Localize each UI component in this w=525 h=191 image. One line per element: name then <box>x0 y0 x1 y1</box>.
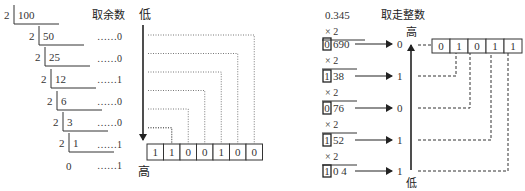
fraction-part: 52 <box>333 134 344 146</box>
fraction-part: 76 <box>333 102 345 114</box>
bit-value: 0 <box>438 40 444 52</box>
extracted-bit: 1 <box>397 134 403 146</box>
fraction-part: 0 4 <box>333 165 347 177</box>
integer-part: 1 <box>324 165 330 177</box>
bit-value: 0 <box>474 40 480 52</box>
extracted-bit: 1 <box>397 165 403 177</box>
integer-part: 1 <box>324 70 330 82</box>
fraction-binary-result: 01011 <box>432 39 522 53</box>
low-label: 低 <box>139 8 151 22</box>
bit-value: 0 <box>202 146 208 158</box>
high-label-right: 高 <box>406 25 417 39</box>
integer-part: 0 <box>324 38 330 50</box>
extracted-bit: 0 <box>397 38 403 50</box>
bit-value: 0 <box>186 146 192 158</box>
high-label: 高 <box>138 164 150 179</box>
bit-value: 1 <box>153 146 159 158</box>
bit-value: 1 <box>510 40 516 52</box>
bit-value: 1 <box>219 146 225 158</box>
dividend: 12 <box>55 73 66 85</box>
conversion-diagram: 取余数 21002502252122623210 ……0……0……1……0……0… <box>0 0 525 191</box>
dividend: 100 <box>18 9 35 21</box>
final-quotient: 0 <box>66 160 72 172</box>
bit-value: 1 <box>456 40 462 52</box>
multiplier: × 2 <box>325 151 338 162</box>
dividend: 6 <box>61 95 67 107</box>
divisor: 2 <box>29 30 35 42</box>
remainder-column: ……0……0……1……0……0……1……1 <box>97 31 122 171</box>
dividend: 1 <box>73 137 79 149</box>
bit-value: 0 <box>235 146 241 158</box>
remainder-connectors <box>148 35 254 144</box>
integer-part: 1 <box>324 134 330 146</box>
multiplier: × 2 <box>325 119 338 130</box>
extracted-bit: 1 <box>397 70 403 82</box>
fraction-part: 38 <box>333 70 345 82</box>
remainder: ……0 <box>97 31 122 42</box>
dividend: 3 <box>67 116 73 128</box>
divisor: 2 <box>53 116 59 128</box>
take-remainder-title: 取余数 <box>92 8 125 22</box>
multiplier: × 2 <box>325 55 338 66</box>
remainder: ……1 <box>97 74 122 85</box>
bit-value: 0 <box>252 146 258 158</box>
multiplier: × 2 <box>325 26 338 37</box>
bit-value: 1 <box>492 40 498 52</box>
dividend: 50 <box>43 30 55 42</box>
integer-connectors <box>418 45 508 171</box>
remainder: ……0 <box>97 96 122 107</box>
multiplicand: 0.345 <box>325 9 350 21</box>
dividend: 25 <box>49 51 61 63</box>
divisor: 2 <box>4 9 10 21</box>
multiplication-steps: × 206900× 21381× 20760× 21521× 210 41 <box>322 26 403 177</box>
remainder: ……1 <box>97 139 122 150</box>
take-integer-title: 取走整数 <box>381 8 425 22</box>
remainder: ……0 <box>97 117 122 128</box>
remainder: ……0 <box>97 53 122 64</box>
divisor: 2 <box>59 137 65 149</box>
integer-part: 0 <box>324 102 330 114</box>
remainder: ……1 <box>97 160 122 171</box>
low-label-right: 低 <box>406 177 417 190</box>
bit-value: 1 <box>169 146 175 158</box>
integer-binary-result: 1100100 <box>147 144 263 160</box>
integer-division-panel: 取余数 21002502252122623210 ……0……0……1……0……0… <box>4 5 263 179</box>
divisor: 2 <box>35 51 41 63</box>
fraction-multiplication-panel: 0.345 取走整数 高 × 206900× 21381× 20760× 215… <box>322 8 522 190</box>
divisor: 2 <box>41 73 47 85</box>
fraction-part: 690 <box>333 38 350 50</box>
extracted-bit: 0 <box>397 102 403 114</box>
divisor: 2 <box>47 95 53 107</box>
multiplier: × 2 <box>325 87 338 98</box>
